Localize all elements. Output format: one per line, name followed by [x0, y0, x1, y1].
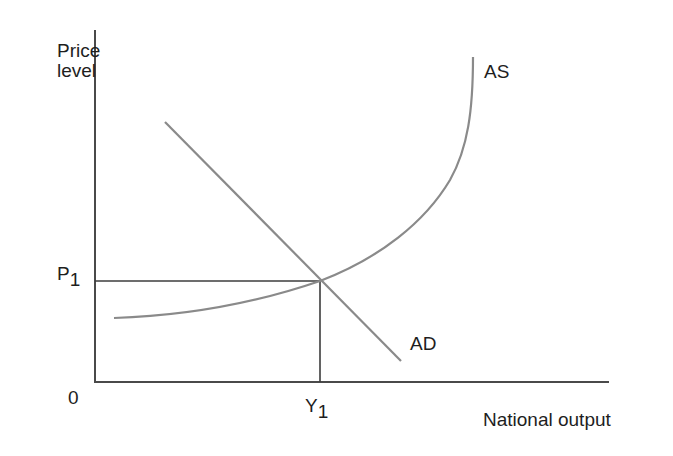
p1-label-sub: 1 — [70, 269, 81, 290]
ad-curve-label: AD — [410, 334, 436, 354]
y1-label-main: Y — [305, 395, 318, 416]
ad-curve — [165, 122, 401, 361]
p1-label-main: P — [57, 263, 70, 284]
y1-label-sub: 1 — [318, 401, 329, 422]
origin-label: 0 — [68, 388, 79, 408]
x-axis-label: National output — [483, 410, 611, 430]
y1-label: Y1 — [305, 396, 328, 416]
y-axis-label-line2: level — [57, 61, 97, 81]
ad-as-diagram — [0, 0, 673, 456]
p1-label: P1 — [57, 264, 80, 284]
as-curve — [114, 57, 473, 318]
y-axis-label-line1: Price — [57, 41, 97, 61]
as-curve-label: AS — [484, 62, 509, 82]
y-axis-label: Price level — [57, 41, 97, 81]
